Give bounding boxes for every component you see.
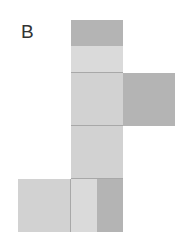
net-face-top-dark [71, 20, 123, 46]
net-face-bottom-mid-dark [97, 179, 123, 232]
net-face-bottom-left [18, 179, 71, 232]
net-face-bottom-mid-light [71, 179, 97, 232]
net-face-middle [71, 73, 123, 126]
net-face-lower [71, 126, 123, 179]
net-face-right [123, 73, 175, 126]
figure-label: B [21, 22, 34, 41]
net-face-top-light [71, 46, 123, 73]
